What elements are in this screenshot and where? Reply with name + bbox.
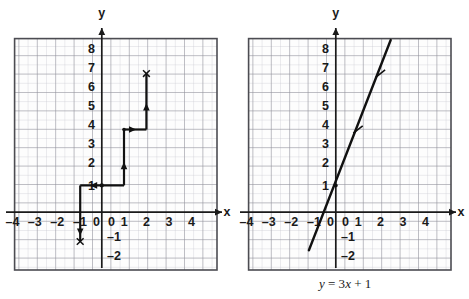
y-tick: –1: [107, 230, 121, 244]
x-tick: 1: [121, 215, 128, 229]
y-tick: 2: [88, 156, 95, 170]
y-tick: 3: [88, 137, 95, 151]
y-tick: 2: [322, 156, 329, 170]
equation-eq3: = 3: [325, 276, 345, 291]
y-tick-zero: 0: [342, 215, 349, 229]
left-step-graph-panel: x y –4 –3 –2 –1 0 1 2 3 4 8 7 6 5 4 3: [0, 0, 235, 299]
y-tick: 1: [322, 179, 329, 193]
y-tick: 7: [322, 61, 329, 75]
x-tick: 4: [422, 215, 429, 229]
y-axis-label: y: [332, 6, 339, 20]
y-tick: –2: [107, 249, 121, 263]
equation-plus1: + 1: [351, 276, 371, 291]
equation-label: y = 3x + 1: [317, 276, 371, 291]
y-tick: 5: [88, 99, 95, 113]
x-tick: 0: [327, 215, 334, 229]
y-tick: 5: [322, 99, 329, 113]
left-graph-svg: x y –4 –3 –2 –1 0 1 2 3 4 8 7 6 5 4 3: [0, 0, 235, 299]
y-tick-zero: 0: [108, 215, 115, 229]
right-line-graph-panel: x y –4 –3 –2 –1 0 1 2 3 4 8 7 6 5 4 3 2: [234, 0, 469, 299]
y-axis-label: y: [98, 6, 105, 20]
x-tick: –3: [28, 215, 42, 229]
y-tick: –1: [341, 230, 355, 244]
right-graph-svg: x y –4 –3 –2 –1 0 1 2 3 4 8 7 6 5 4 3 2: [234, 0, 469, 299]
y-tick: 7: [88, 61, 95, 75]
y-intercept-dot: [334, 184, 338, 188]
y-tick: 4: [88, 118, 95, 132]
x-tick: 4: [188, 215, 195, 229]
x-tick: 3: [400, 215, 407, 229]
x-tick: 0: [93, 215, 100, 229]
y-tick: 6: [88, 80, 95, 94]
figure-container: x y –4 –3 –2 –1 0 1 2 3 4 8 7 6 5 4 3: [0, 0, 469, 299]
y-intercept-dot: [100, 183, 104, 187]
corner-dot: [122, 128, 126, 132]
x-tick: 2: [377, 215, 384, 229]
x-tick: –4: [5, 215, 19, 229]
x-tick: 2: [143, 215, 150, 229]
x-tick: 1: [355, 215, 362, 229]
y-tick: 8: [88, 42, 95, 56]
y-tick: 8: [322, 42, 329, 56]
y-tick: –2: [341, 249, 355, 263]
y-tick: 3: [322, 137, 329, 151]
x-tick: –2: [50, 215, 64, 229]
x-tick: 3: [166, 215, 173, 229]
y-tick: 6: [322, 80, 329, 94]
x-tick: –2: [284, 215, 298, 229]
x-axis-label: x: [458, 205, 465, 219]
x-tick: –4: [239, 215, 253, 229]
x-tick: –3: [262, 215, 276, 229]
y-tick: 4: [322, 118, 329, 132]
x-axis-label: x: [224, 205, 231, 219]
